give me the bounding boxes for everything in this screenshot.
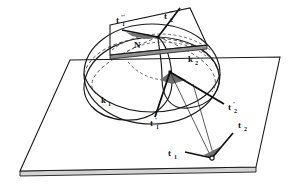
label-t1-prime-subscript: 1 bbox=[156, 124, 159, 130]
label-t2-prime-subscript: 2 bbox=[234, 108, 237, 114]
label-k2-subscript: 2 bbox=[195, 60, 198, 66]
label-t1-subscript: 1 bbox=[174, 154, 177, 160]
geometry-diagram: k 1 k 2 N t 1 '' t 2 '' t 1 ' t bbox=[0, 0, 293, 188]
label-k1-text: k bbox=[101, 95, 106, 105]
label-k1-subscript: 1 bbox=[108, 101, 111, 107]
label-t2-dprime-prime: '' bbox=[169, 9, 173, 17]
label-k2-text: k bbox=[188, 54, 193, 64]
ground-point bbox=[210, 156, 214, 160]
label-t1-prime-text: t bbox=[150, 118, 153, 128]
label-t1-dprime-prime: '' bbox=[121, 13, 125, 21]
label-t2-prime-prime: ' bbox=[233, 100, 235, 108]
label-t2-dprime: t 2 '' bbox=[164, 9, 173, 23]
label-t2-dprime-subscript: 2 bbox=[170, 17, 173, 23]
figure-container: k 1 k 2 N t 1 '' t 2 '' t 1 ' t bbox=[0, 0, 293, 188]
label-t2-dprime-text: t bbox=[164, 11, 167, 21]
base-plane-group bbox=[20, 57, 280, 176]
center-point bbox=[168, 70, 171, 73]
label-t1-text: t bbox=[168, 148, 171, 158]
label-t2-subscript: 2 bbox=[244, 126, 247, 132]
label-t1-dprime-text: t bbox=[116, 15, 119, 25]
label-t2-text: t bbox=[238, 120, 241, 130]
label-t1-prime-prime: ' bbox=[155, 116, 157, 124]
label-t1-dprime-subscript: 1 bbox=[122, 21, 125, 27]
label-t2-prime-text: t bbox=[228, 102, 231, 112]
label-t1-dprime: t 1 '' bbox=[116, 13, 125, 27]
label-north-pole: N bbox=[134, 40, 141, 50]
north-pole-point bbox=[156, 35, 159, 38]
base-plane-top-face bbox=[20, 57, 280, 171]
